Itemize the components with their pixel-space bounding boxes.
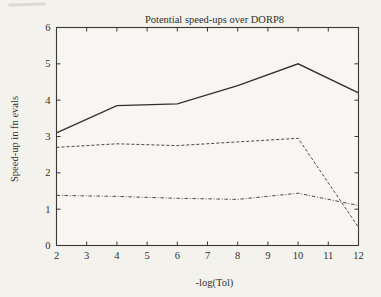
x-tick-labels: 23456789101112 [54, 250, 364, 261]
x-tick-label-10: 10 [293, 250, 304, 261]
x-tick-label-3: 3 [84, 250, 89, 261]
x-tick-label-8: 8 [235, 250, 240, 261]
x-tick-label-7: 7 [205, 250, 210, 261]
y-axis-label: Speed-up in fn evals [9, 96, 20, 182]
y-tick-label-6: 6 [45, 22, 50, 33]
y-tick-label-4: 4 [45, 95, 51, 106]
x-tick-label-11: 11 [323, 250, 333, 261]
x-tick-label-2: 2 [54, 250, 59, 261]
y-tick-label-1: 1 [45, 204, 50, 215]
x-tick-label-6: 6 [175, 250, 180, 261]
x-tick-label-4: 4 [114, 250, 120, 261]
y-tick-label-2: 2 [45, 167, 50, 178]
scanned-figure-page: 23456789101112 0123456 Potential speed-u… [0, 0, 381, 297]
y-tick-label-5: 5 [45, 58, 50, 69]
y-tick-label-3: 3 [45, 131, 50, 142]
plot-area [57, 28, 359, 246]
chart-title: Potential speed-ups over DORP8 [145, 14, 284, 25]
x-tick-label-9: 9 [265, 250, 270, 261]
x-tick-label-5: 5 [144, 250, 149, 261]
x-axis-label: -log(Tol) [196, 277, 234, 289]
y-tick-labels: 0123456 [45, 22, 51, 251]
x-tick-label-12: 12 [353, 250, 364, 261]
y-tick-label-0: 0 [45, 240, 50, 251]
line-chart: 23456789101112 0123456 Potential speed-u… [0, 0, 381, 297]
